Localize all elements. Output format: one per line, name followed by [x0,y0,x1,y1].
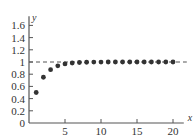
data-point [163,60,168,65]
data-point [171,60,176,65]
data-point [70,61,75,66]
data-point [34,90,39,95]
data-point [106,60,111,65]
y-tick-label: 0.6 [11,80,25,92]
y-tick-label: 0.4 [11,93,25,105]
y-tick-label: 1.4 [11,32,25,44]
x-tick-label: 10 [96,125,108,137]
y-tick-label: 1.2 [11,44,25,56]
y-tick-label: 0 [20,117,26,129]
y-tick-label: 0.8 [11,68,25,80]
data-point [149,60,154,65]
data-point [77,60,82,65]
y-tick-label: 1.6 [11,19,25,31]
chart: 510152000.20.40.60.811.21.41.6xy [0,0,196,138]
data-point [63,62,68,67]
data-point [127,60,132,65]
data-point [91,60,96,65]
data-point [113,60,118,65]
data-point [156,60,161,65]
data-point [55,63,60,68]
x-tick-label: 5 [62,125,68,137]
chart-svg: 510152000.20.40.60.811.21.41.6xy [0,0,196,138]
data-point [142,60,147,65]
data-point [99,60,104,65]
data-points [34,60,176,95]
y-tick-label: 1 [20,56,26,68]
x-tick-label: 15 [132,125,144,137]
y-axis-label: y [31,12,37,23]
x-axis-label: x [187,112,193,123]
data-point [48,67,53,72]
data-point [84,60,89,65]
data-point [135,60,140,65]
x-tick-label: 20 [168,125,180,137]
axis-labels: 510152000.20.40.60.811.21.41.6xy [11,12,193,137]
y-tick-label: 0.2 [11,105,25,117]
data-point [41,75,46,80]
data-point [120,60,125,65]
